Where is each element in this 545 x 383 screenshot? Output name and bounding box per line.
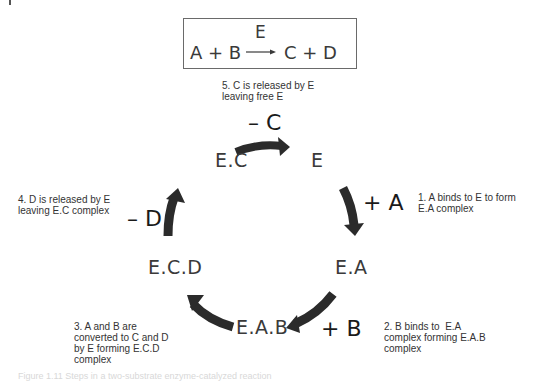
step-1-note: 1. A binds to E to form E.A complex (418, 192, 516, 214)
arrow-convert-icon (187, 295, 233, 327)
node-eab: E.A.B (236, 316, 288, 338)
symbol-plus-b: + B (321, 316, 362, 341)
node-ea: E.A (335, 256, 368, 278)
node-e: E (311, 149, 324, 171)
node-ec: E.C (215, 149, 248, 171)
symbol-minus-d: – D (127, 206, 162, 231)
figure-caption: Figure 1.11 Steps in a two-substrate enz… (18, 371, 271, 381)
arrow-bind-a-icon (343, 188, 364, 236)
arrow-release-d-icon (166, 188, 185, 236)
step-2-note: 2. B binds to E.A complex forming E.A.B … (384, 321, 486, 354)
step-3-note: 3. A and B are converted to C and D by E… (74, 321, 169, 365)
symbol-plus-a: + A (363, 190, 403, 215)
node-ecd: E.C.D (148, 256, 202, 278)
step-4-note: 4. D is released by E leaving E.C comple… (18, 194, 110, 216)
symbol-minus-c: – C (248, 110, 281, 135)
